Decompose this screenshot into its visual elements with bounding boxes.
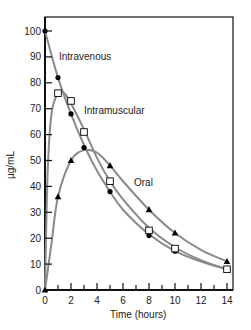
x-tick-label: 4	[94, 295, 100, 306]
point-intravenous	[55, 75, 60, 80]
point-intramuscular	[224, 266, 231, 273]
point-intramuscular	[55, 90, 62, 97]
markers	[42, 28, 231, 292]
point-intravenous	[68, 111, 73, 116]
point-intramuscular	[68, 98, 75, 105]
y-tick-label: 60	[30, 129, 42, 140]
x-tick-label: 12	[195, 295, 207, 306]
x-tick-label: 14	[221, 295, 233, 306]
label-oral: Oral	[134, 177, 153, 188]
curve-oral	[45, 150, 227, 290]
point-oral	[55, 193, 62, 199]
point-intramuscular	[107, 178, 114, 185]
label-intramuscular: Intramuscular	[84, 105, 145, 116]
point-intravenous	[107, 189, 112, 194]
pharmacokinetic-chart: 024681012140102030405060708090100 Intrav…	[0, 0, 251, 330]
y-tick-label: 50	[30, 155, 42, 166]
point-intravenous	[81, 145, 86, 150]
y-tick-label: 10	[30, 259, 42, 270]
y-tick-label: 40	[30, 181, 42, 192]
y-tick-label: 90	[30, 51, 42, 62]
y-tick-label: 30	[30, 207, 42, 218]
curve-intravenous	[45, 31, 227, 269]
label-intravenous: Intravenous	[59, 51, 111, 62]
y-tick-label: 0	[35, 285, 41, 296]
point-intramuscular	[81, 129, 88, 136]
y-tick-label: 20	[30, 233, 42, 244]
x-tick-label: 6	[120, 295, 126, 306]
y-axis-title: µg/mL	[5, 151, 16, 179]
point-intramuscular	[172, 245, 179, 252]
x-tick-label: 2	[68, 295, 74, 306]
x-tick-label: 10	[169, 295, 181, 306]
x-tick-label: 8	[146, 295, 152, 306]
curve-intramuscular	[45, 91, 227, 290]
y-tick-label: 100	[24, 26, 41, 37]
x-tick-label: 0	[42, 295, 48, 306]
point-intramuscular	[146, 227, 153, 234]
y-tick-label: 70	[30, 103, 42, 114]
y-tick-label: 80	[30, 77, 42, 88]
x-axis-title: Time (hours)	[110, 309, 166, 320]
